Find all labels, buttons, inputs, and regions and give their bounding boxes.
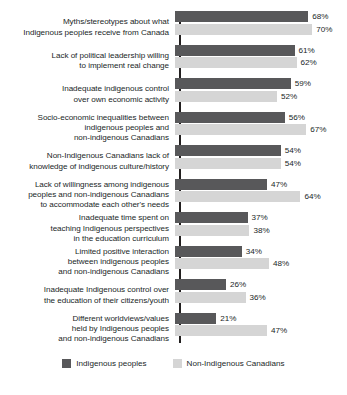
bar-row: 70% <box>175 24 347 35</box>
bar-indigenous-peoples <box>175 45 295 56</box>
bar-value-label: 59% <box>291 78 311 89</box>
bar-value-label: 54% <box>281 158 301 169</box>
category-bars: 26%36% <box>174 279 347 313</box>
chart-category-group: Socio-economic inequalities betweenindig… <box>0 112 347 146</box>
category-label: Inadequate Indigenous control overthe ed… <box>0 285 174 306</box>
category-label-line: to accommodate each other's needs <box>0 200 169 210</box>
bar-row: 54% <box>175 158 347 169</box>
bar-indigenous-peoples <box>175 279 226 290</box>
legend-label: Non-Indigenous Canadians <box>187 359 285 368</box>
category-label-line: Different worldviews/values <box>0 314 169 324</box>
chart-category-group: Myths/stereotypes about whatIndigenous p… <box>0 11 347 45</box>
bar-non-indigenous-canadians <box>175 24 312 35</box>
category-label: Non-Indigenous Canadians lack ofknowledg… <box>0 151 174 172</box>
chart-plot-area: Myths/stereotypes about whatIndigenous p… <box>0 11 347 346</box>
bar-row: 68% <box>175 11 347 22</box>
category-label-line: Limited positive interaction <box>0 247 169 257</box>
grouped-bar-chart: Myths/stereotypes about whatIndigenous p… <box>0 0 347 395</box>
bar-value-label: 26% <box>226 279 246 290</box>
bar-value-label: 38% <box>249 225 269 236</box>
category-label-line: Socio-economic inequalities between <box>0 113 169 123</box>
category-label-line: Lack of willingness among indigenous <box>0 180 169 190</box>
category-label-line: Indigenous peoples receive from Canada <box>0 28 169 38</box>
bar-row: 26% <box>175 279 347 290</box>
bar-row: 52% <box>175 91 347 102</box>
category-label-line: Inadequate Indigenous control over <box>0 285 169 295</box>
category-label-line: indigenous peoples and <box>0 123 169 133</box>
bar-value-label: 48% <box>269 258 289 269</box>
category-label-line: between indigenous peoples <box>0 257 169 267</box>
category-label-line: non-indigenous Canadians <box>0 133 169 143</box>
bar-indigenous-peoples <box>175 11 308 22</box>
category-bars: 37%38% <box>174 212 347 246</box>
bar-indigenous-peoples <box>175 246 242 257</box>
bar-indigenous-peoples <box>175 78 291 89</box>
category-label: Different worldviews/valuesheld by Indig… <box>0 314 174 345</box>
category-label-line: held by Indigenous peoples <box>0 324 169 334</box>
chart-category-group: Inadequate time spent onteaching Indigen… <box>0 212 347 246</box>
category-label: Limited positive interactionbetween indi… <box>0 247 174 278</box>
bar-value-label: 64% <box>300 191 320 202</box>
bar-value-label: 68% <box>308 11 328 22</box>
category-bars: 61%62% <box>174 45 347 79</box>
bar-non-indigenous-canadians <box>175 57 297 68</box>
legend-item: Non-Indigenous Canadians <box>173 359 285 368</box>
category-label: Inadequate indigenous controlover own ec… <box>0 84 174 105</box>
bar-value-label: 62% <box>297 57 317 68</box>
category-label-line: Inadequate indigenous control <box>0 84 169 94</box>
bar-value-label: 34% <box>242 246 262 257</box>
bar-value-label: 47% <box>267 179 287 190</box>
bar-row: 61% <box>175 45 347 56</box>
bar-non-indigenous-canadians <box>175 258 269 269</box>
bar-value-label: 54% <box>281 145 301 156</box>
bar-row: 21% <box>175 313 347 324</box>
category-label: Socio-economic inequalities betweenindig… <box>0 113 174 144</box>
bar-row: 47% <box>175 325 347 336</box>
bar-row: 59% <box>175 78 347 89</box>
chart-category-group: Non-Indigenous Canadians lack ofknowledg… <box>0 145 347 179</box>
category-label-line: in the education curriculum <box>0 234 169 244</box>
category-label-line: over own economic activity <box>0 95 169 105</box>
legend-swatch-icon <box>173 359 182 368</box>
bar-row: 48% <box>175 258 347 269</box>
bar-row: 38% <box>175 225 347 236</box>
bar-indigenous-peoples <box>175 212 248 223</box>
bar-value-label: 47% <box>267 325 287 336</box>
chart-category-group: Lack of willingness among indigenouspeop… <box>0 179 347 213</box>
bar-row: 56% <box>175 112 347 123</box>
category-label: Myths/stereotypes about whatIndigenous p… <box>0 17 174 38</box>
chart-category-group: Limited positive interactionbetween indi… <box>0 246 347 280</box>
legend-label: Indigenous peoples <box>76 359 146 368</box>
legend-item: Indigenous peoples <box>62 359 146 368</box>
category-bars: 59%52% <box>174 78 347 112</box>
category-label-line: and non-indigenous Canadians <box>0 334 169 344</box>
category-label-line: knowledge of indigenous culture/history <box>0 162 169 172</box>
bar-non-indigenous-canadians <box>175 158 281 169</box>
category-bars: 21%47% <box>174 313 347 347</box>
bar-row: 37% <box>175 212 347 223</box>
category-label-line: peoples and non-indigenous Canadians <box>0 190 169 200</box>
bar-row: 47% <box>175 179 347 190</box>
bar-value-label: 61% <box>295 45 315 56</box>
category-label-line: and non-indigenous Canadians <box>0 267 169 277</box>
bar-indigenous-peoples <box>175 145 281 156</box>
bar-indigenous-peoples <box>175 112 285 123</box>
bar-non-indigenous-canadians <box>175 225 249 236</box>
bar-value-label: 37% <box>248 212 268 223</box>
bar-indigenous-peoples <box>175 313 216 324</box>
category-bars: 68%70% <box>174 11 347 45</box>
bar-row: 54% <box>175 145 347 156</box>
category-label-line: the education of their citizens/youth <box>0 296 169 306</box>
category-label-line: teaching Indigenous perspectives <box>0 224 169 234</box>
bar-indigenous-peoples <box>175 179 267 190</box>
category-bars: 54%54% <box>174 145 347 179</box>
bar-value-label: 52% <box>277 91 297 102</box>
bar-non-indigenous-canadians <box>175 325 267 336</box>
chart-category-group: Inadequate indigenous controlover own ec… <box>0 78 347 112</box>
category-label-line: Lack of political leadership willing <box>0 51 169 61</box>
bar-non-indigenous-canadians <box>175 191 300 202</box>
bar-row: 67% <box>175 124 347 135</box>
chart-category-group: Different worldviews/valuesheld by Indig… <box>0 313 347 347</box>
category-label-line: Myths/stereotypes about what <box>0 17 169 27</box>
category-label: Inadequate time spent onteaching Indigen… <box>0 213 174 244</box>
